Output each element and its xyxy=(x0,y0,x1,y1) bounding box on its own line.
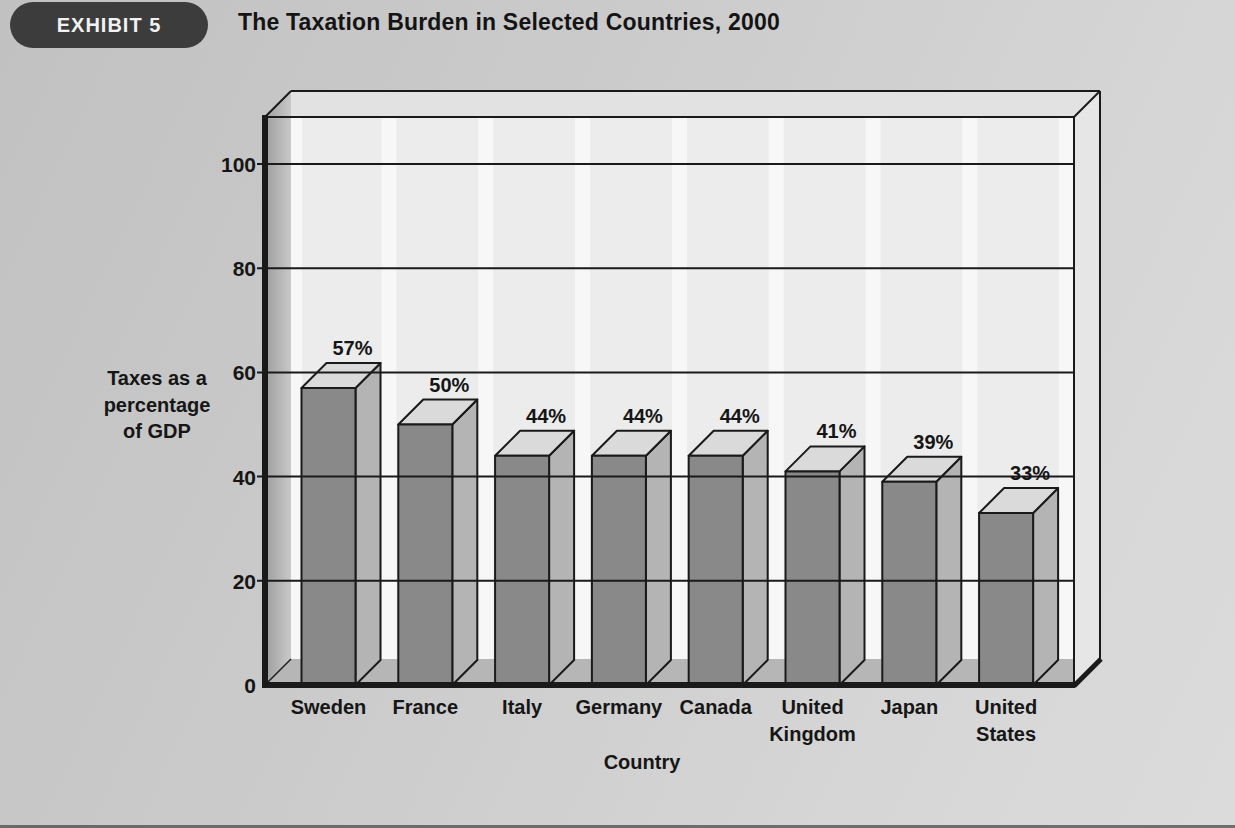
x-tick-label-sweden: Sweden xyxy=(291,696,367,718)
value-label-france: 50% xyxy=(429,374,469,396)
bar-side-united-states xyxy=(1033,488,1058,685)
y-tick-label-60: 60 xyxy=(233,361,256,384)
x-tick-label-japan: Japan xyxy=(880,696,938,718)
x-tick-label-united-kingdom: Kingdom xyxy=(769,723,856,745)
bar-italy xyxy=(495,456,549,685)
value-label-united-states: 33% xyxy=(1010,462,1050,484)
bar-canada xyxy=(689,456,743,685)
y-tick-label-20: 20 xyxy=(233,570,256,593)
back-wall-highlight xyxy=(672,91,687,659)
y-tick-label-100: 100 xyxy=(221,153,256,176)
bar-side-united-kingdom xyxy=(840,446,865,685)
x-tick-label-france: France xyxy=(393,696,459,718)
x-tick-label-germany: Germany xyxy=(576,696,664,718)
value-label-united-kingdom: 41% xyxy=(816,420,856,442)
bar-united-kingdom xyxy=(786,471,840,685)
box-left-wall xyxy=(265,91,291,685)
back-wall-highlight xyxy=(382,91,397,659)
x-tick-label-italy: Italy xyxy=(502,696,543,718)
textbook-exhibit-page: EXHIBIT 5 The Taxation Burden in Selecte… xyxy=(0,0,1235,828)
bar-side-sweden xyxy=(356,363,381,685)
bar-side-canada xyxy=(743,431,768,685)
value-label-canada: 44% xyxy=(720,405,760,427)
taxation-burden-bar-chart: 02040608010057%50%44%44%44%41%39%33%Swed… xyxy=(0,0,1235,828)
bar-side-japan xyxy=(936,457,961,685)
y-tick-label-80: 80 xyxy=(233,257,256,280)
x-tick-label-united-states: States xyxy=(976,723,1036,745)
bar-side-italy xyxy=(549,431,574,685)
x-tick-label-united-states: United xyxy=(975,696,1037,718)
bar-germany xyxy=(592,456,646,685)
back-wall-highlight xyxy=(575,91,590,659)
y-axis-title: Taxes as a xyxy=(107,367,208,389)
back-wall-highlight xyxy=(769,91,784,659)
x-axis-title: Country xyxy=(604,751,682,773)
bar-sweden xyxy=(302,388,356,685)
value-label-germany: 44% xyxy=(623,405,663,427)
bar-side-germany xyxy=(646,431,671,685)
box-top-face xyxy=(265,91,1100,117)
y-tick-label-40: 40 xyxy=(233,466,256,489)
bar-side-france xyxy=(452,400,477,686)
box-floor xyxy=(265,659,1100,685)
box-right-wall xyxy=(1074,91,1100,685)
bar-france xyxy=(398,425,452,686)
value-label-italy: 44% xyxy=(526,405,566,427)
back-wall-highlight xyxy=(478,91,493,659)
y-axis-title: of GDP xyxy=(123,420,191,442)
back-wall-highlight xyxy=(962,91,977,659)
back-wall-highlight xyxy=(1059,91,1074,659)
value-label-sweden: 57% xyxy=(332,337,372,359)
value-label-japan: 39% xyxy=(913,431,953,453)
y-tick-label-0: 0 xyxy=(244,674,256,697)
x-tick-label-canada: Canada xyxy=(680,696,753,718)
bar-japan xyxy=(882,482,936,685)
y-axis-title: percentage xyxy=(104,394,211,416)
x-tick-label-united-kingdom: United xyxy=(781,696,843,718)
bar-united-states xyxy=(979,513,1033,685)
back-wall-highlight xyxy=(866,91,881,659)
